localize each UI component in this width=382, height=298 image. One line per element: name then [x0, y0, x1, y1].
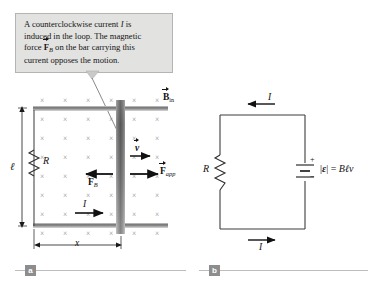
- emf-equals-sign: =: [331, 163, 337, 174]
- figure-tab-a: a: [25, 265, 36, 276]
- battery-minus-label: −: [310, 172, 315, 181]
- current-label-top-b: I: [268, 92, 271, 102]
- battery-plus-label: +: [310, 155, 315, 164]
- figure-root: A counterclockwise current I is induced …: [0, 0, 382, 298]
- figure-rule-a-right: [36, 270, 186, 271]
- figure-rule-a-left: [15, 270, 25, 271]
- emf-bar-right: |: [326, 163, 328, 174]
- resistor-b-label: R: [203, 163, 209, 174]
- current-label-bottom-b: I: [259, 242, 262, 252]
- resistor-b-icon: [215, 155, 225, 190]
- panel-b-diagram: [0, 0, 382, 298]
- figure-tab-b: b: [209, 265, 220, 276]
- figure-rule-b-right: [220, 270, 368, 271]
- figure-rule-b-left: [199, 270, 209, 271]
- emf-equation: |ε| = Bℓv: [320, 163, 354, 174]
- emf-velocity-term: v: [349, 163, 353, 174]
